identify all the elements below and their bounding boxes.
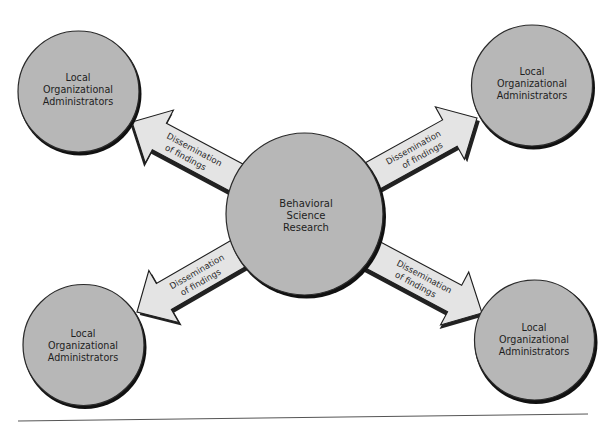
node-bottom-left: Local Organizational Administrators [23, 285, 147, 410]
node-top-left-label-3: Administrators [43, 96, 113, 107]
dissemination-diagram: Dissemination of findings Dissemination … [0, 0, 611, 427]
node-bottom-right-label-1: Local [522, 322, 547, 333]
node-top-right: Local Organizational Administrators [472, 25, 596, 150]
node-top-right-label-2: Organizational [497, 78, 567, 89]
bottom-rule [18, 414, 588, 421]
node-top-left-label-2: Organizational [43, 84, 113, 95]
node-bottom-left-label-3: Administrators [48, 352, 118, 363]
node-top-right-label-1: Local [520, 66, 545, 77]
node-bottom-left-label-2: Organizational [48, 340, 118, 351]
node-top-left-label-1: Local [66, 72, 91, 83]
node-bottom-right: Local Organizational Administrators [475, 280, 598, 404]
node-bottom-right-label-3: Administrators [499, 346, 569, 357]
node-center-label-2: Science [287, 210, 326, 221]
node-top-left: Local Organizational Administrators [18, 31, 142, 156]
node-center: Behavioral Science Research [226, 133, 386, 299]
node-center-label-3: Research [283, 222, 329, 233]
node-bottom-right-label-2: Organizational [499, 334, 569, 345]
node-bottom-left-label-1: Local [71, 328, 96, 339]
node-top-right-label-3: Administrators [497, 90, 567, 101]
node-center-label-1: Behavioral [279, 198, 332, 209]
